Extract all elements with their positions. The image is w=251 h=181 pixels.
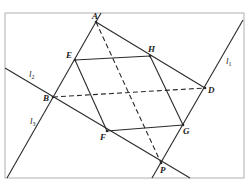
point-F — [106, 130, 109, 133]
point-D — [204, 87, 207, 90]
point-label-H: H — [147, 44, 156, 54]
point-label-G: G — [183, 126, 190, 136]
point-label-F: F — [99, 132, 106, 142]
segment-BD — [53, 88, 205, 97]
point-label-A: A — [91, 11, 98, 21]
point-label-D: D — [207, 85, 215, 95]
lines-group — [5, 13, 243, 178]
line-l1 — [152, 20, 243, 178]
line-label-l2: l2 — [29, 69, 35, 80]
segment-EH — [75, 56, 150, 60]
point-label-P: P — [160, 165, 166, 175]
point-label-E: E — [65, 50, 72, 60]
point-A — [95, 21, 98, 24]
point-B — [52, 96, 55, 99]
point-label-B: B — [42, 93, 49, 103]
point-E — [74, 59, 77, 62]
diagram-frame — [5, 13, 244, 178]
point-H — [149, 55, 152, 58]
line-label-l1: l1 — [226, 56, 232, 67]
line-label-l3: l3 — [30, 116, 36, 127]
geometry-diagram: l1l2l3AEHDBFGP — [0, 0, 251, 181]
point-P — [160, 162, 163, 165]
